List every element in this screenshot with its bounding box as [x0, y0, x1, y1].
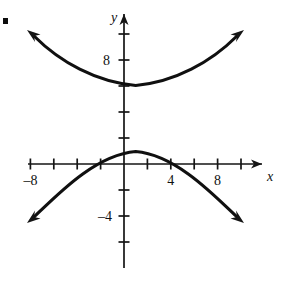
lower-branch-path — [34, 152, 237, 218]
curve-upper-branch — [27, 30, 244, 86]
graph-figure: –8 4 8 x 8 –4 y — [0, 0, 284, 284]
y-tick-label--4: –4 — [97, 209, 112, 224]
x-axis-label: x — [266, 169, 274, 184]
y-tick-label-8: 8 — [103, 53, 110, 68]
x-axis: –8 4 8 x — [22, 159, 273, 189]
coordinate-plane: –8 4 8 x 8 –4 y — [0, 0, 284, 284]
x-tick-label-4: 4 — [167, 173, 174, 188]
x-tick-label--8: –8 — [22, 173, 37, 188]
curve-lower-branch — [27, 152, 244, 224]
y-axis: 8 –4 y — [97, 10, 130, 268]
upper-branch-path — [34, 36, 237, 86]
y-axis-label: y — [109, 10, 118, 25]
x-tick-label-8: 8 — [214, 173, 221, 188]
